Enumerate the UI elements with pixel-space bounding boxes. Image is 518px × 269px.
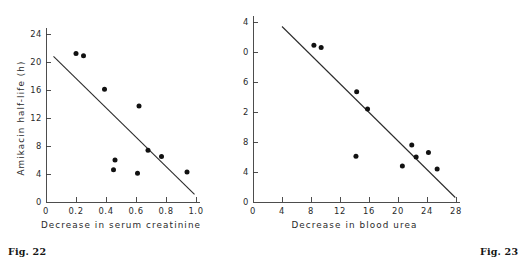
scatter-plot-22: 0481216202400.20.40.60.81.0Decrease in s… (0, 0, 243, 240)
data-point (159, 154, 164, 159)
data-point (137, 104, 142, 109)
data-point (111, 167, 116, 172)
data-point (102, 87, 107, 92)
y-tick-label: 16 (30, 85, 42, 95)
x-tick-label: 28 (450, 206, 462, 216)
x-axis-title: Decrease in blood urea (291, 220, 417, 230)
y-tick-label: 20 (243, 47, 249, 57)
y-tick-label: 12 (30, 113, 42, 123)
y-tick-label: 20 (30, 57, 42, 67)
x-axis-title: Decrease in serum creatinine (41, 220, 201, 230)
y-tick-label: 24 (30, 29, 42, 39)
x-tick-label: 0.6 (128, 206, 143, 216)
y-tick-label: 24 (243, 17, 249, 27)
y-tick-label: 0 (36, 197, 42, 207)
figure-panel-23: 048121620240481216202428Decrease in bloo… (243, 0, 486, 269)
x-tick-label: 0 (250, 206, 256, 216)
x-tick-label: 16 (363, 206, 375, 216)
data-point (74, 51, 79, 56)
y-axis-title: Amikacin half-life (h) (16, 60, 26, 175)
y-tick-label: 8 (36, 141, 42, 151)
regression-line (282, 27, 455, 198)
data-point (414, 155, 419, 160)
data-point (319, 45, 324, 50)
y-tick-label: 4 (243, 167, 249, 177)
figure-panel-22: 0481216202400.20.40.60.81.0Decrease in s… (0, 0, 243, 269)
x-tick-label: 20 (392, 206, 404, 216)
data-point (113, 158, 118, 163)
data-point (409, 143, 414, 148)
data-point (146, 148, 151, 153)
figure-caption-23: Fig. 23 (480, 246, 518, 257)
data-point (185, 169, 190, 174)
data-point (311, 43, 316, 48)
y-tick-label: 4 (36, 169, 42, 179)
x-tick-label: 8 (308, 206, 314, 216)
figure-caption-22: Fig. 22 (8, 246, 46, 257)
scatter-plot-23: 048121620240481216202428Decrease in bloo… (243, 0, 486, 240)
data-point (426, 150, 431, 155)
data-point (135, 171, 140, 176)
x-tick-label: 12 (334, 206, 346, 216)
y-tick-label: 16 (243, 77, 249, 87)
x-tick-label: 0 (43, 206, 49, 216)
data-point (400, 164, 405, 169)
x-tick-label: 0.2 (68, 206, 83, 216)
x-tick-label: 0.4 (98, 206, 113, 216)
x-tick-label: 0.8 (158, 206, 173, 216)
regression-line (54, 56, 195, 194)
x-tick-label: 4 (279, 206, 285, 216)
data-point (435, 167, 440, 172)
data-point (81, 53, 86, 58)
data-point (353, 154, 358, 159)
y-tick-label: 8 (243, 137, 249, 147)
x-tick-label: 1.0 (188, 206, 203, 216)
data-point (365, 107, 370, 112)
y-tick-label: 0 (243, 197, 249, 207)
x-tick-label: 24 (421, 206, 433, 216)
data-point (354, 89, 359, 94)
y-tick-label: 12 (243, 107, 249, 117)
